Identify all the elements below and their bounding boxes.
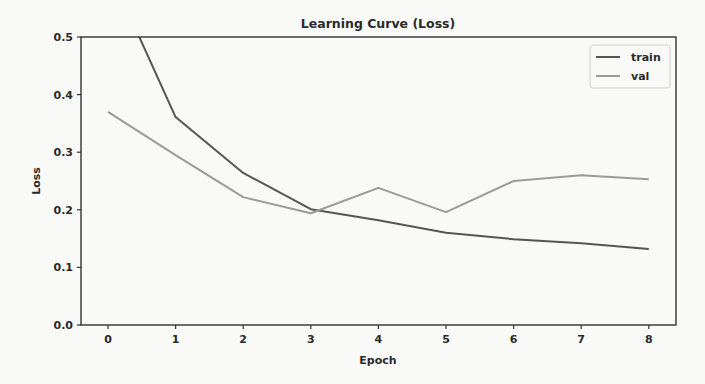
x-tick-label: 2 <box>239 333 247 346</box>
y-tick-label: 0.4 <box>54 89 74 102</box>
x-tick-label: 0 <box>104 333 112 346</box>
legend-label-val: val <box>631 70 649 83</box>
y-tick-label: 0.1 <box>54 261 74 274</box>
legend: trainval <box>590 45 670 88</box>
x-tick-label: 1 <box>172 333 180 346</box>
x-tick-label: 7 <box>577 333 585 346</box>
x-tick-label: 4 <box>375 333 383 346</box>
plot-area <box>81 0 676 325</box>
x-tick-label: 8 <box>645 333 653 346</box>
chart-title: Learning Curve (Loss) <box>301 16 456 31</box>
y-axis: 0.00.10.20.30.40.5 <box>54 31 82 332</box>
loss-chart: Learning Curve (Loss) 0.00.10.20.30.40.5… <box>0 0 705 384</box>
y-tick-label: 0.2 <box>54 204 74 217</box>
x-axis-label: Epoch <box>359 354 396 367</box>
y-axis-label: Loss <box>30 167 43 195</box>
y-tick-label: 0.5 <box>54 31 74 44</box>
y-tick-label: 0.0 <box>54 319 74 332</box>
y-tick-label: 0.3 <box>54 146 74 159</box>
x-tick-label: 5 <box>442 333 450 346</box>
x-tick-label: 6 <box>510 333 518 346</box>
x-axis: 012345678 <box>104 325 652 346</box>
x-tick-label: 3 <box>307 333 315 346</box>
plot-frame <box>81 37 676 325</box>
legend-label-train: train <box>631 51 661 64</box>
